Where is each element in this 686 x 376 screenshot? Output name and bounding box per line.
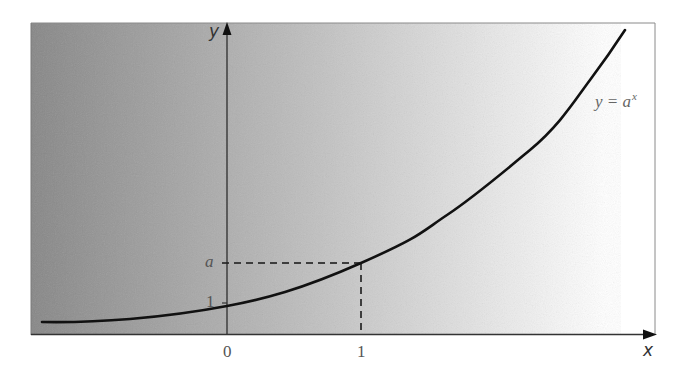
y-axis-label: y [209, 23, 219, 40]
y-tick-label-one: 1 [206, 293, 215, 310]
graph-canvas [0, 0, 686, 376]
curve-label-exponent: x [632, 90, 637, 102]
x-axis-label: x [643, 342, 653, 359]
exponential-graph-figure: y x 0 1 1 a y = ax [0, 0, 686, 376]
x-tick-label-one: 1 [357, 343, 366, 360]
x-tick-label-zero: 0 [223, 343, 232, 360]
background-grain [31, 23, 621, 335]
curve-label-base: y = a [595, 92, 631, 111]
curve-equation-label: y = ax [595, 91, 637, 110]
y-tick-label-a: a [205, 253, 214, 270]
